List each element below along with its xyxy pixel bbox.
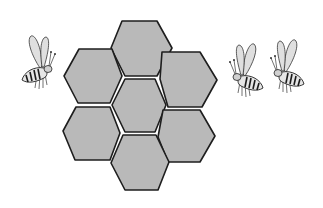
honeycomb <box>63 21 217 190</box>
bee-right-2-icon <box>270 40 304 93</box>
illustration: Honeycomb with bees <box>0 0 323 208</box>
hex-cell-center <box>112 79 166 132</box>
bee-right-1-icon <box>229 44 263 97</box>
hex-cell-lower-left <box>63 107 120 160</box>
hex-cell-bottom <box>111 135 169 190</box>
hex-cell-upper-right <box>160 52 217 107</box>
bee-left-icon <box>22 36 56 89</box>
honeycomb-svg <box>0 0 323 208</box>
hex-cell-lower-right <box>158 110 215 162</box>
hex-cell-upper-left <box>64 49 122 103</box>
